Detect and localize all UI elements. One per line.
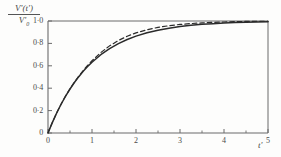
- data-curves-group: [48, 21, 268, 133]
- axes-group: [48, 21, 268, 133]
- plot-area: [0, 0, 281, 157]
- dashed-curve: [48, 21, 268, 133]
- solid-curve: [48, 22, 268, 133]
- tick-marks-group: [48, 21, 268, 133]
- figure-container: V'(t') V'0 t' 00·20·40·60·81·0 012345: [0, 0, 281, 157]
